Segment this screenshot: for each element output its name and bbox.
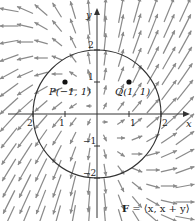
arrowhead-icon [0, 41, 4, 45]
point-p [62, 79, 67, 84]
arrowhead-icon [52, 72, 56, 76]
arrowhead-icon [17, 57, 21, 61]
x-tick-label: 1 [59, 118, 65, 128]
arrowhead-icon [121, 136, 125, 140]
point-label-q: Q(1, 1) [115, 86, 150, 97]
arrowhead-icon [69, 209, 73, 213]
point-label-p: P(−1, 1) [48, 86, 91, 97]
field-arrow [37, 206, 46, 221]
arrowhead-icon [104, 0, 108, 3]
arrowhead-icon [138, 152, 142, 156]
y-tick-label: 2 [88, 40, 94, 50]
x-tick-label: 1 [130, 118, 136, 128]
y-tick-label: −2 [83, 168, 96, 178]
field-formula: F = ⟨x, x + y⟩ [122, 203, 190, 214]
field-definition: = ⟨x, x + y⟩ [129, 203, 190, 214]
y-tick-label: 1 [88, 72, 94, 82]
x-tick-label: 2 [27, 118, 33, 128]
arrowhead-icon [86, 104, 90, 108]
y-tick-label: −1 [83, 136, 96, 146]
arrowhead-icon [173, 167, 177, 171]
y-axis-label: y [85, 9, 92, 20]
arrowhead-icon [0, 7, 4, 11]
arrowhead-icon [34, 56, 38, 60]
field-symbol: F [122, 203, 129, 214]
x-axis-label: x [186, 118, 192, 129]
arrowhead-icon [121, 14, 125, 18]
arrowhead-icon [86, 0, 90, 4]
point-q [126, 79, 131, 84]
y-axis-arrowhead-icon [94, 8, 100, 15]
x-axis-arrowhead-icon [183, 111, 190, 117]
arrowhead-icon [0, 24, 3, 28]
x-axis [8, 111, 190, 117]
arrowhead-icon [104, 120, 108, 124]
vector-field-figure: x y 211221−1−2 P(−1, 1)Q(1, 1) F = ⟨x, x… [0, 0, 196, 221]
arrowhead-icon [156, 168, 160, 172]
arrowhead-icon [191, 200, 195, 204]
y-axis [94, 8, 100, 218]
x-tick-label: 2 [162, 118, 168, 128]
